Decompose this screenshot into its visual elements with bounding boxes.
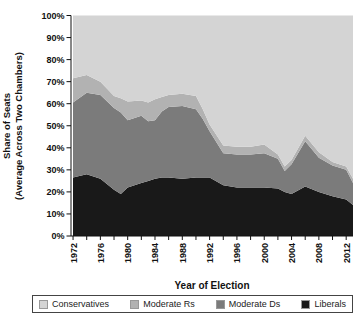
x-tick-label: 1996 bbox=[232, 243, 242, 263]
x-tick-label: 2000 bbox=[260, 243, 270, 263]
chart-figure: 0%10%20%30%40%50%60%70%80%90%100%1972197… bbox=[0, 0, 360, 319]
legend-item-moderate-ds: Moderate Ds bbox=[216, 299, 281, 309]
y-axis-title-line1: Share of Seats bbox=[1, 93, 12, 159]
y-tick-label: 40% bbox=[46, 143, 64, 153]
stacked-area-chart: 0%10%20%30%40%50%60%70%80%90%100%1972197… bbox=[0, 0, 360, 319]
x-tick-label: 1984 bbox=[150, 243, 160, 263]
x-tick-label: 2004 bbox=[287, 243, 297, 263]
moderate-rs-swatch-icon bbox=[130, 300, 139, 309]
legend-label-conservatives: Conservatives bbox=[52, 299, 109, 309]
y-tick-label: 50% bbox=[46, 121, 64, 131]
x-axis-title: Year of Election bbox=[174, 280, 249, 291]
y-tick-label: 20% bbox=[46, 187, 64, 197]
legend: Conservatives Moderate Rs Moderate Ds Li… bbox=[32, 295, 353, 313]
legend-label-moderate-ds: Moderate Ds bbox=[229, 299, 281, 309]
y-tick-label: 30% bbox=[46, 165, 64, 175]
x-tick-label: 1988 bbox=[178, 243, 188, 263]
x-tick-label: 1992 bbox=[205, 243, 215, 263]
y-tick-label: 70% bbox=[46, 77, 64, 87]
y-axis-title-line2: (Average Across Two Chambers) bbox=[13, 52, 24, 200]
x-tick-label: 1972 bbox=[69, 243, 79, 263]
liberals-swatch-icon bbox=[301, 300, 310, 309]
x-tick-label: 2012 bbox=[342, 243, 352, 263]
y-tick-label: 100% bbox=[41, 11, 64, 21]
legend-item-liberals: Liberals bbox=[301, 299, 346, 309]
legend-label-moderate-rs: Moderate Rs bbox=[143, 299, 195, 309]
x-tick-label: 1976 bbox=[96, 243, 106, 263]
conservatives-swatch-icon bbox=[39, 300, 48, 309]
moderate-ds-swatch-icon bbox=[216, 300, 225, 309]
legend-label-liberals: Liberals bbox=[314, 299, 346, 309]
legend-item-moderate-rs: Moderate Rs bbox=[130, 299, 195, 309]
y-tick-label: 80% bbox=[46, 55, 64, 65]
y-tick-label: 90% bbox=[46, 33, 64, 43]
y-tick-label: 60% bbox=[46, 99, 64, 109]
y-tick-label: 10% bbox=[46, 209, 64, 219]
x-tick-label: 2008 bbox=[314, 243, 324, 263]
area-layers bbox=[73, 16, 353, 237]
y-tick-label: 0% bbox=[51, 231, 64, 241]
legend-item-conservatives: Conservatives bbox=[39, 299, 109, 309]
x-tick-label: 1980 bbox=[123, 243, 133, 263]
